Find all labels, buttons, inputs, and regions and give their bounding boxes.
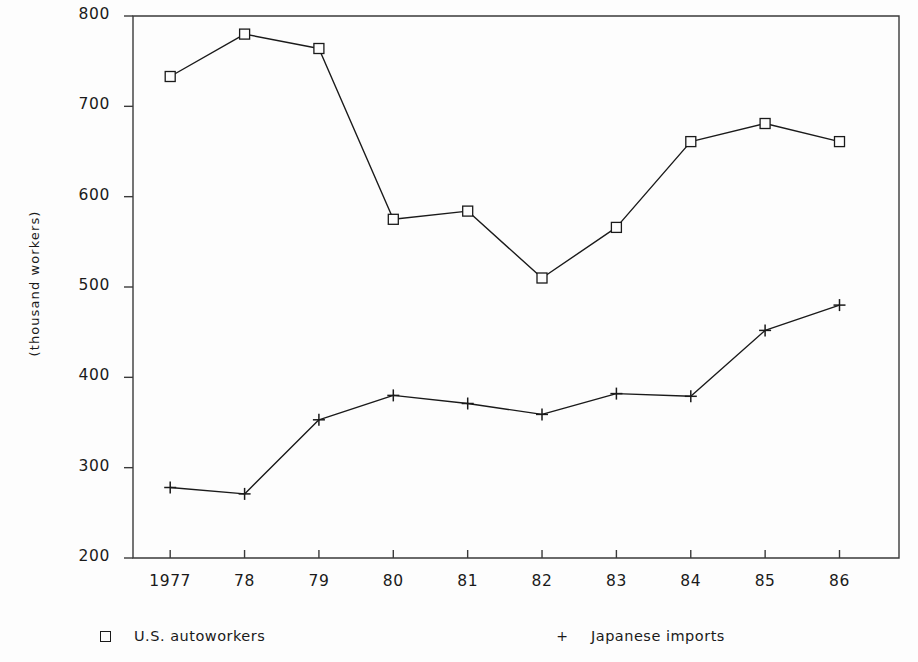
x-tick-label-85: 85	[725, 572, 805, 590]
y-tick-label-800: 800	[28, 5, 110, 23]
y-tick-label-200: 200	[28, 547, 110, 565]
x-tick-label-83: 83	[576, 572, 656, 590]
plot-area	[0, 0, 918, 662]
data-point-us-autoworkers-86[interactable]	[835, 137, 845, 147]
y-tick-label-700: 700	[28, 95, 110, 113]
data-point-us-autoworkers-83[interactable]	[611, 222, 621, 232]
y-tick-label-500: 500	[28, 276, 110, 294]
x-tick-label-86: 86	[800, 572, 880, 590]
x-tick-label-78: 78	[205, 572, 285, 590]
x-tick-label-82: 82	[502, 572, 582, 590]
legend-item-japanese-imports[interactable]: + Japanese imports	[549, 628, 725, 644]
x-tick-label-1977: 1977	[130, 572, 210, 590]
data-point-us-autoworkers-78[interactable]	[240, 29, 250, 39]
data-point-us-autoworkers-81[interactable]	[463, 206, 473, 216]
legend-plus-icon: +	[549, 628, 575, 644]
y-tick-label-400: 400	[28, 366, 110, 384]
data-point-us-autoworkers-85[interactable]	[760, 119, 770, 129]
y-tick-label-300: 300	[28, 457, 110, 475]
legend-label-us-autoworkers: U.S. autoworkers	[134, 628, 265, 644]
data-point-us-autoworkers-84[interactable]	[686, 137, 696, 147]
legend-square-icon	[92, 628, 118, 644]
data-point-us-autoworkers-82[interactable]	[537, 273, 547, 283]
data-point-us-autoworkers-80[interactable]	[388, 214, 398, 224]
x-tick-label-79: 79	[279, 572, 359, 590]
y-tick-label-600: 600	[28, 186, 110, 204]
x-tick-label-84: 84	[651, 572, 731, 590]
x-tick-label-80: 80	[353, 572, 433, 590]
plot-frame	[133, 16, 899, 558]
series-line-japanese-imports	[170, 305, 839, 494]
legend-label-japanese-imports: Japanese imports	[591, 628, 725, 644]
legend-item-us-autoworkers[interactable]: U.S. autoworkers	[92, 628, 265, 644]
series-line-us-autoworkers	[170, 34, 839, 278]
data-point-us-autoworkers-1977[interactable]	[165, 72, 175, 82]
data-point-us-autoworkers-79[interactable]	[314, 44, 324, 54]
x-tick-label-81: 81	[428, 572, 508, 590]
chart-figure: (thousand workers) 200300400500600700800…	[0, 0, 918, 662]
